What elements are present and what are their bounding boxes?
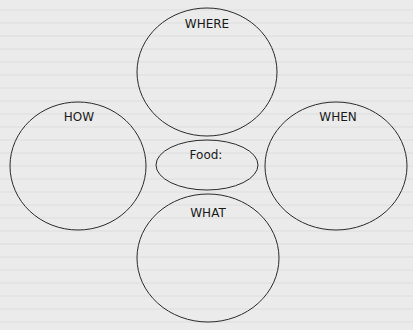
node-center-food: Food: — [156, 140, 258, 190]
node-where: WHERE — [137, 8, 277, 136]
when-label: WHEN — [319, 110, 356, 124]
where-label: WHERE — [185, 17, 229, 31]
node-what: WHAT — [137, 194, 279, 322]
node-how: HOW — [10, 102, 146, 230]
graphic-organizer-page: WHERE HOW WHEN Food: WHAT — [0, 0, 413, 330]
food-label: Food: — [190, 148, 223, 162]
what-label: WHAT — [190, 206, 226, 220]
how-label: HOW — [64, 110, 94, 124]
concept-web-diagram: WHERE HOW WHEN Food: WHAT — [0, 0, 413, 330]
node-when: WHEN — [265, 102, 407, 230]
